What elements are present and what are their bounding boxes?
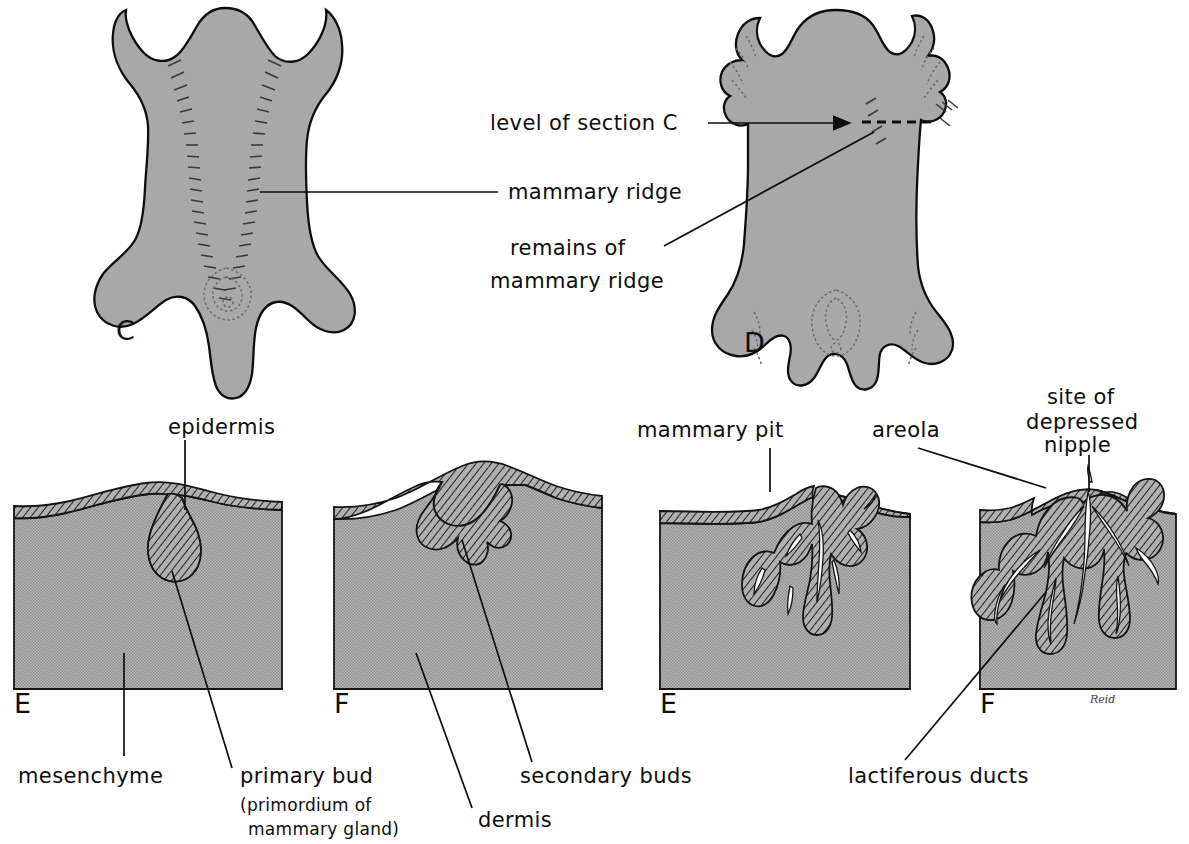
label-mammary-pit: mammary pit xyxy=(637,418,784,442)
panel-a-embryo: C xyxy=(94,8,354,399)
label-areola: areola xyxy=(872,418,940,442)
panel-letter-d: F xyxy=(334,688,350,719)
mammary-gland-development-figure: C xyxy=(0,0,1189,844)
panel-letter-c: E xyxy=(14,688,31,719)
label-remains-of-line2: mammary ridge xyxy=(490,269,664,293)
label-mammary-ridge: mammary ridge xyxy=(508,180,682,204)
label-site-of-line2: depressed xyxy=(1026,410,1138,434)
label-remains-of-line1: remains of xyxy=(510,236,626,260)
label-lactiferous-ducts: lactiferous ducts xyxy=(848,764,1029,788)
panel-letter-a: C xyxy=(116,315,135,346)
label-epidermis: epidermis xyxy=(168,415,275,439)
label-dermis: dermis xyxy=(478,808,552,832)
label-secondary-buds: secondary buds xyxy=(520,764,692,788)
label-site-of-line1: site of xyxy=(1047,385,1115,409)
label-level-of-section-c: level of section C xyxy=(490,111,678,135)
panel-e-section: E xyxy=(660,486,910,719)
leader-areola xyxy=(918,448,1046,488)
label-site-of-line3: nipple xyxy=(1044,433,1111,457)
label-primary-bud: primary bud xyxy=(240,764,373,788)
label-primary-bud-sub2: mammary gland) xyxy=(248,819,399,839)
panel-c-section: E xyxy=(14,482,282,719)
panel-letter-e: E xyxy=(660,688,677,719)
panel-f-section: F xyxy=(971,466,1176,719)
panel-letter-b: D xyxy=(744,327,765,358)
panel-d-section: F xyxy=(334,462,602,720)
mesenchyme-block-c xyxy=(14,493,282,689)
label-mesenchyme: mesenchyme xyxy=(18,764,163,788)
artist-signature: Reid xyxy=(1089,693,1115,706)
label-primary-bud-sub1: (primordium of xyxy=(240,795,372,815)
panel-letter-f: F xyxy=(980,688,996,719)
